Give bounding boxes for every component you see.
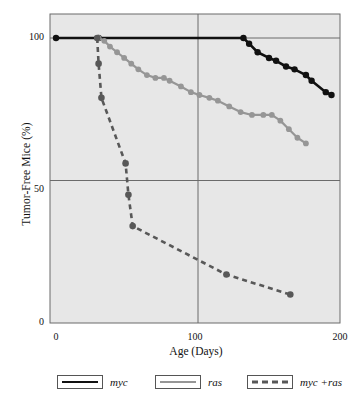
- data-point-myc-0: [53, 35, 59, 41]
- data-point-myc-ras-3: [122, 160, 129, 167]
- plot-background: [50, 14, 340, 323]
- data-point-ras-12: [188, 89, 194, 95]
- data-point-ras-11: [178, 84, 184, 90]
- data-point-myc-7: [283, 63, 289, 69]
- data-point-ras-7: [144, 72, 150, 78]
- data-point-ras-20: [269, 112, 275, 118]
- data-point-ras-6: [135, 66, 141, 72]
- data-point-myc-8: [291, 66, 297, 72]
- data-point-ras-19: [260, 112, 266, 118]
- legend: myc ras myc +ras: [0, 372, 352, 394]
- data-point-myc-9: [303, 72, 309, 78]
- data-point-ras-4: [121, 55, 127, 61]
- data-point-myc-12: [328, 92, 334, 98]
- data-point-ras-3: [114, 49, 120, 55]
- data-point-myc-ras-5: [129, 223, 136, 230]
- data-point-ras-18: [249, 112, 255, 118]
- legend-swatch-ras: [155, 375, 201, 389]
- plot-background-group: [50, 14, 340, 323]
- data-point-myc-2: [240, 35, 246, 41]
- data-point-ras-24: [303, 141, 309, 147]
- legend-swatch-myc: [57, 375, 103, 389]
- data-point-ras-9: [161, 75, 167, 81]
- data-point-myc-ras-2: [98, 95, 105, 102]
- data-point-ras-8: [153, 75, 159, 81]
- data-point-myc-ras-0: [94, 35, 101, 42]
- data-point-ras-17: [238, 109, 244, 115]
- data-point-ras-21: [277, 118, 283, 124]
- data-point-myc-ras-4: [125, 191, 132, 198]
- data-point-myc-4: [254, 49, 260, 55]
- legend-label-ras: ras: [208, 376, 222, 388]
- legend-label-myc-ras: myc +ras: [300, 376, 342, 388]
- legend-entry-myc[interactable]: myc: [57, 372, 128, 392]
- data-point-myc-ras-1: [95, 60, 102, 67]
- data-point-myc-5: [266, 55, 272, 61]
- plot-area: [0, 0, 352, 405]
- data-point-ras-23: [295, 135, 301, 141]
- data-point-ras-10: [167, 78, 173, 84]
- data-point-myc-11: [323, 89, 329, 95]
- data-point-ras-2: [107, 44, 113, 50]
- legend-entry-ras[interactable]: ras: [155, 372, 222, 392]
- data-point-ras-16: [226, 104, 232, 110]
- data-point-myc-10: [308, 78, 314, 84]
- legend-label-myc: myc: [110, 376, 128, 388]
- legend-entry-myc-ras[interactable]: myc +ras: [247, 372, 342, 392]
- survival-chart-figure: Tumor-Free Mice (%) 100 50 0 0 100 200 A…: [0, 0, 352, 405]
- data-point-myc-3: [246, 41, 252, 47]
- data-point-ras-22: [286, 126, 292, 132]
- data-point-myc-ras-6: [223, 271, 230, 278]
- data-point-ras-15: [215, 98, 221, 104]
- data-point-ras-5: [128, 61, 134, 67]
- data-point-ras-13: [197, 92, 203, 98]
- data-point-myc-6: [273, 58, 279, 64]
- data-point-ras-1: [101, 38, 107, 44]
- data-point-myc-ras-7: [287, 291, 294, 298]
- legend-swatch-myc-ras: [247, 375, 293, 389]
- data-point-ras-14: [206, 95, 212, 101]
